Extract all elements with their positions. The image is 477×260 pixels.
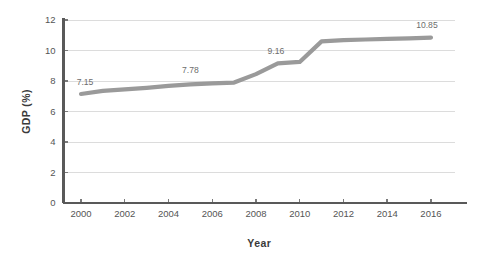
x-tick-label: 2004 bbox=[158, 208, 179, 219]
y-tick-label: 4 bbox=[50, 136, 55, 147]
y-tick-label: 10 bbox=[45, 45, 56, 56]
gdp-line-chart: 024681012 200020022004200620082010201220… bbox=[0, 0, 477, 260]
x-tick-label: 2014 bbox=[377, 208, 398, 219]
x-tick-label: 2010 bbox=[289, 208, 310, 219]
x-tick-labels-group: 200020022004200620082010201220142016 bbox=[70, 208, 441, 219]
x-tick-label: 2002 bbox=[114, 208, 135, 219]
x-tick-label: 2006 bbox=[202, 208, 223, 219]
chart-canvas: 024681012 200020022004200620082010201220… bbox=[0, 0, 477, 260]
y-tick-label: 0 bbox=[50, 197, 55, 208]
data-point-label: 9.16 bbox=[267, 46, 284, 56]
x-tick-label: 2016 bbox=[420, 208, 441, 219]
y-tick-label: 12 bbox=[45, 14, 56, 25]
y-tick-label: 6 bbox=[50, 106, 55, 117]
x-tick-label: 2000 bbox=[70, 208, 91, 219]
data-point-label: 7.15 bbox=[77, 77, 94, 87]
x-tick-label: 2012 bbox=[333, 208, 354, 219]
x-tick-label: 2008 bbox=[245, 208, 266, 219]
x-axis-title: Year bbox=[247, 237, 271, 249]
y-tick-label: 2 bbox=[50, 167, 55, 178]
y-tick-label: 8 bbox=[50, 75, 55, 86]
data-point-label: 7.78 bbox=[182, 65, 199, 75]
y-axis-title: GDP (%) bbox=[20, 89, 32, 134]
data-point-label: 10.85 bbox=[416, 20, 438, 30]
